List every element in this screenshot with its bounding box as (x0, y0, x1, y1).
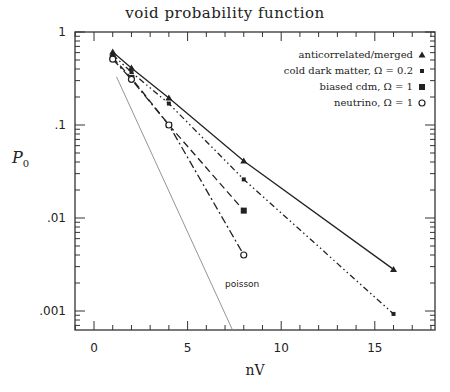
legend: anticorrelated/mergedcold dark matter, Ω… (284, 49, 426, 108)
legend-entry-label: neutrino, Ω = 1 (334, 97, 413, 108)
circle-marker (419, 100, 425, 106)
series-line (113, 59, 244, 255)
square-marker (419, 84, 425, 90)
series-line (113, 55, 394, 314)
cross-marker (392, 312, 396, 316)
y-tick-label: .01 (47, 211, 66, 225)
legend-entry-label: cold dark matter, Ω = 0.2 (284, 65, 413, 76)
circle-marker (110, 56, 116, 62)
x-tick-label: 15 (367, 341, 382, 355)
square-marker (241, 208, 247, 214)
circle-marker (166, 122, 172, 128)
triangle-marker (390, 266, 397, 272)
circle-marker (128, 76, 134, 82)
cross-marker (167, 102, 171, 106)
poisson-annotation: poisson (225, 279, 259, 289)
series-1 (111, 53, 396, 316)
y-tick-label: 1 (58, 25, 66, 39)
legend-entry-label: anticorrelated/merged (299, 49, 414, 60)
series-4 (117, 77, 233, 330)
plot-area: 0510151.1.01.001poissonanticorrelated/me… (0, 0, 450, 392)
y-tick-label: .001 (39, 304, 66, 318)
triangle-marker (419, 52, 426, 58)
circle-marker (241, 252, 247, 258)
x-tick-label: 10 (274, 341, 289, 355)
legend-entry-label: biased cdm, Ω = 1 (320, 81, 413, 92)
series-line (117, 77, 233, 330)
y-tick-label: .1 (55, 118, 66, 132)
x-tick-label: 0 (90, 341, 98, 355)
cross-marker (420, 69, 424, 73)
series-3 (110, 56, 247, 258)
x-tick-label: 5 (184, 341, 192, 355)
cross-marker (129, 70, 133, 74)
cross-marker (242, 177, 246, 181)
